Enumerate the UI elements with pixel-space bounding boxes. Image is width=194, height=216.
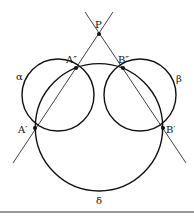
label-a-double-prime: A″ bbox=[65, 54, 77, 65]
point-a-prime bbox=[33, 126, 37, 130]
circle-beta bbox=[104, 59, 176, 131]
point-b-prime bbox=[161, 126, 165, 130]
point-p bbox=[97, 32, 101, 36]
label-a-prime: A′ bbox=[17, 124, 28, 135]
point-a-double-prime bbox=[74, 66, 78, 70]
geometry-diagram: P A″ B″ A′ B′ α β δ bbox=[0, 0, 194, 216]
circle-delta bbox=[35, 64, 162, 191]
label-alpha: α bbox=[16, 71, 23, 82]
point-b-double-prime bbox=[121, 66, 125, 70]
label-b-double-prime: B″ bbox=[118, 54, 129, 65]
label-p: P bbox=[95, 19, 102, 30]
label-delta: δ bbox=[96, 195, 102, 206]
label-b-prime: B′ bbox=[166, 124, 176, 135]
label-beta: β bbox=[176, 73, 182, 84]
